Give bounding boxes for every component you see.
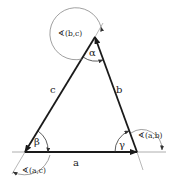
side-a-label: a [73,157,79,168]
side-c-extension-top [95,23,103,37]
side-b-label: b [116,84,122,95]
angle-alpha-label: α [89,47,96,58]
directed-angle-ab-label: ∢(a,b) [138,131,163,140]
side-b-extension [137,152,143,170]
angle-beta-label: β [34,136,40,147]
side-c-label: c [50,84,56,95]
directed-angle-bc-label: ∢(b,c) [58,29,82,38]
triangle-diagram: a b c α β γ ∢(b,c) ∢(a,c) ∢(a,b) [0,0,177,188]
angle-gamma-label: γ [119,139,125,150]
directed-angle-ac-label: ∢(a,c) [22,166,46,175]
